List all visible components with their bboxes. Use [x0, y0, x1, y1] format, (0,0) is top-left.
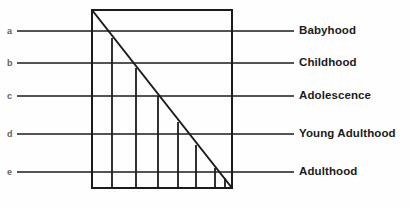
- stage-label-c: Adolescence: [299, 90, 371, 102]
- life-span-stages-figure: abcde BabyhoodChildhoodAdolescenceYoung …: [0, 0, 409, 208]
- key-letter-e: e: [7, 168, 12, 177]
- vertical-tick-group: [112, 38, 225, 188]
- stage-label-a: Babyhood: [299, 25, 356, 37]
- diagonal-line: [92, 10, 232, 188]
- stage-label-e: Adulthood: [299, 166, 357, 178]
- key-letter-a: a: [7, 27, 12, 36]
- key-letter-d: d: [7, 130, 13, 139]
- stage-label-b: Childhood: [299, 57, 357, 69]
- stage-label-d: Young Adulthood: [299, 128, 396, 140]
- key-letter-c: c: [7, 92, 12, 101]
- leader-line-group: [17, 31, 294, 172]
- diagonal-line-group: [92, 10, 232, 188]
- key-letter-b: b: [7, 59, 13, 68]
